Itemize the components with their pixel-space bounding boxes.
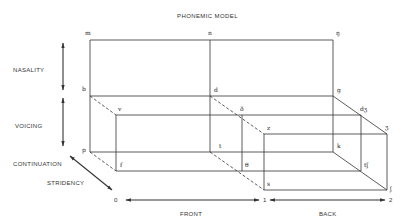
- phoneme-dh: ð: [240, 106, 244, 112]
- phoneme-sh: ʃ: [390, 186, 392, 192]
- phoneme-n: n: [208, 30, 212, 36]
- nasality-label: NASALITY: [13, 67, 44, 73]
- phoneme-g: g: [337, 87, 341, 93]
- diagram-title: PHONEMIC MODEL: [177, 13, 238, 19]
- phoneme-t: t: [219, 143, 221, 149]
- front-label: FRONT: [180, 211, 202, 217]
- edge-p-f: [90, 152, 116, 171]
- phoneme-th: θ: [245, 162, 249, 168]
- phonemic-model-diagram: [0, 0, 404, 224]
- phoneme-k: k: [337, 143, 341, 149]
- phoneme-s: s: [267, 181, 270, 187]
- phoneme-z: z: [267, 125, 270, 131]
- phoneme-zh: ʒ: [385, 124, 388, 130]
- phoneme-ng: ŋ: [336, 30, 340, 36]
- phoneme-v: v: [118, 106, 121, 112]
- tick-0: 0: [114, 197, 118, 203]
- stridency-label: STRIDENCY: [47, 180, 84, 186]
- phoneme-tsh: tʃ: [364, 162, 368, 168]
- phoneme-m: m: [85, 30, 91, 36]
- edge-b-v: [90, 96, 116, 115]
- tick-2: 2: [389, 197, 393, 203]
- voicing-label: VOICING: [15, 123, 42, 129]
- phoneme-dzh: dʒ: [360, 106, 367, 112]
- continuation-label: CONTINUATION: [13, 161, 62, 167]
- tick-1: 1: [263, 197, 267, 203]
- back-label: BACK: [319, 211, 337, 217]
- phoneme-d: d: [214, 87, 218, 93]
- phoneme-f: f: [120, 162, 122, 168]
- phoneme-p: p: [82, 147, 86, 153]
- phoneme-b: b: [82, 86, 86, 92]
